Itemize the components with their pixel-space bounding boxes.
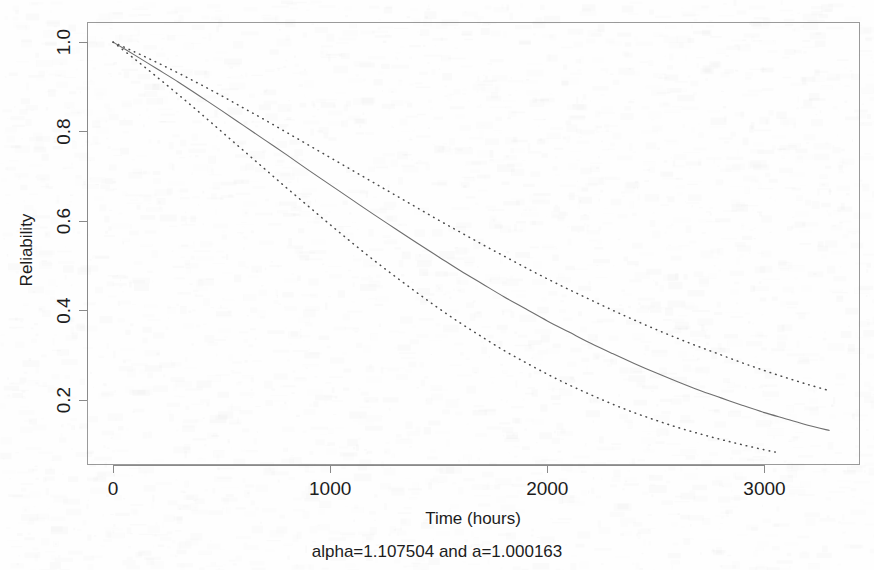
lower-bound-curve <box>113 42 775 452</box>
chart-subtitle: alpha=1.107504 and a=1.000163 <box>312 542 563 561</box>
reliability-chart-figure: 0.20.40.60.81.0 0100020003000 Time (hour… <box>0 0 874 570</box>
x-tick-label: 3000 <box>743 478 785 499</box>
y-tick-label: 0.6 <box>54 208 75 234</box>
y-axis-title: Reliability <box>17 213 36 286</box>
plot-frame <box>88 23 860 465</box>
y-tick-label: 0.8 <box>54 118 75 144</box>
reliability-plot-svg: 0.20.40.60.81.0 0100020003000 Time (hour… <box>0 0 874 570</box>
y-tick-label: 0.2 <box>54 387 75 413</box>
x-tick-label: 0 <box>108 478 119 499</box>
x-tick-label: 2000 <box>526 478 568 499</box>
y-axis: 0.20.40.60.81.0 <box>54 29 88 413</box>
y-tick-label: 0.4 <box>54 297 75 324</box>
data-curves <box>113 42 830 452</box>
y-tick-label: 1.0 <box>54 29 75 55</box>
x-axis-title: Time (hours) <box>425 509 521 528</box>
upper-bound-curve <box>113 42 830 391</box>
x-tick-label: 1000 <box>309 478 351 499</box>
reliability-curve <box>113 42 830 430</box>
x-axis: 0100020003000 <box>108 465 786 499</box>
